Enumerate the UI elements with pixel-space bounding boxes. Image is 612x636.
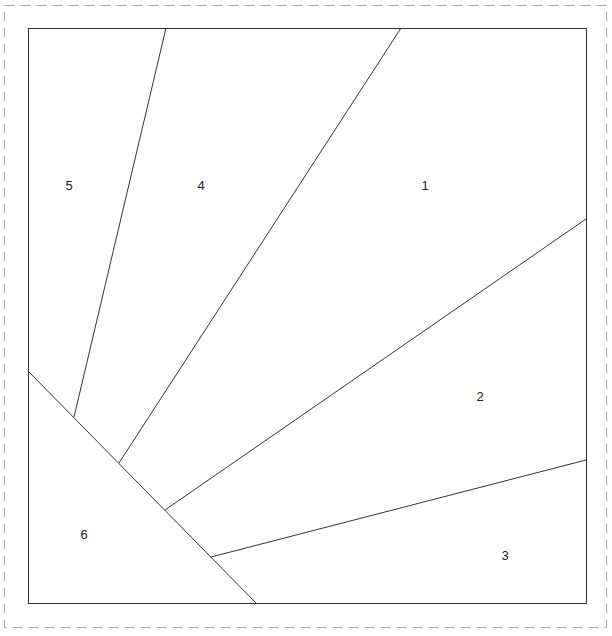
seam-line-s1-2 bbox=[165, 219, 586, 510]
block-outline bbox=[29, 29, 587, 604]
seam-line-s5-4 bbox=[74, 28, 166, 417]
piece-label-5: 5 bbox=[65, 178, 72, 193]
seam-line-diag bbox=[28, 371, 256, 603]
seam-line-s4-1 bbox=[119, 28, 401, 463]
piece-labels: 1 2 3 4 5 6 bbox=[65, 178, 508, 563]
seam-lines bbox=[28, 28, 586, 603]
piece-label-1: 1 bbox=[421, 178, 428, 193]
seam-line-s2-3 bbox=[211, 460, 586, 557]
piece-label-2: 2 bbox=[476, 389, 483, 404]
piece-label-6: 6 bbox=[80, 527, 87, 542]
piece-label-4: 4 bbox=[197, 178, 204, 193]
cutting-line-dashed-border bbox=[5, 6, 607, 628]
piece-label-3: 3 bbox=[501, 548, 508, 563]
paper-piecing-diagram: 1 2 3 4 5 6 bbox=[0, 0, 612, 636]
